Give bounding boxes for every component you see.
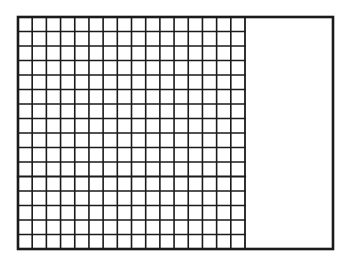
grid-diagram — [0, 0, 350, 260]
